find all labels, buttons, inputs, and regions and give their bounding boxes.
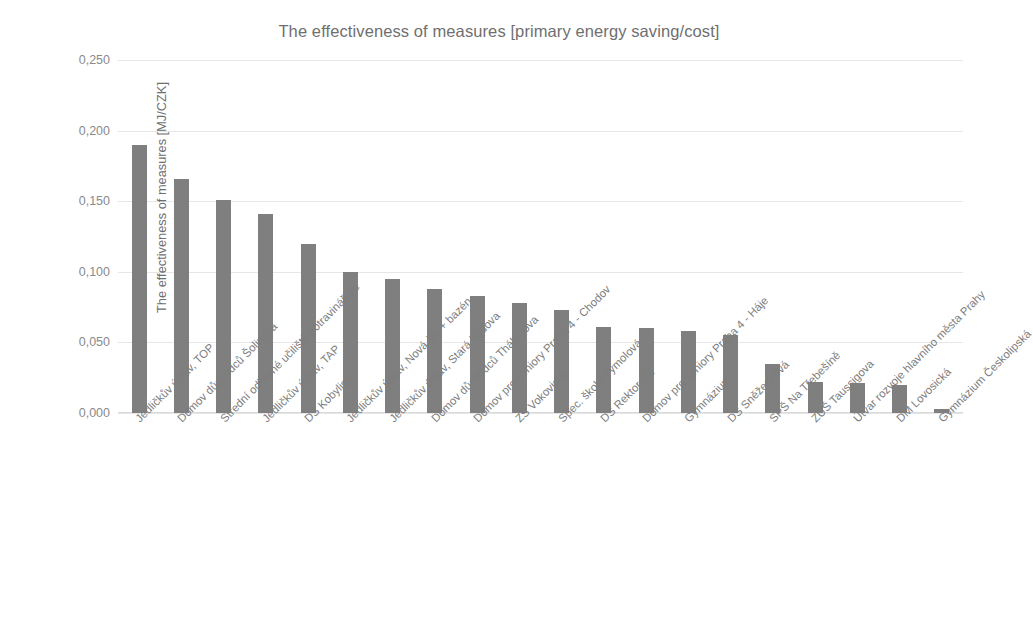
bar[interactable] — [427, 289, 442, 413]
bar-slot — [921, 60, 963, 413]
y-axis-tick-label: 0,050 — [79, 335, 110, 349]
y-axis-tick-label: 0,000 — [79, 406, 110, 420]
y-axis-tick-label: 0,100 — [79, 265, 110, 279]
bar-slot — [752, 60, 794, 413]
bar-slot — [710, 60, 752, 413]
bar-slot — [836, 60, 878, 413]
y-axis-tick-label: 0,250 — [79, 53, 110, 67]
y-axis-tick-label: 0,200 — [79, 124, 110, 138]
chart-title: The effectiveness of measures [primary e… — [0, 22, 998, 41]
y-axis-tick-labels: 0,2500,2000,1500,1000,0500,000 — [48, 60, 110, 413]
bar-slot — [541, 60, 583, 413]
bar-slot — [625, 60, 667, 413]
x-axis-category-labels: Jedličkův ústav, TOPDomov důchodců Šolin… — [118, 416, 998, 631]
bar-slot — [329, 60, 371, 413]
y-axis-title: The effectiveness of measures [MJ/CZK] — [154, 48, 169, 348]
bar[interactable] — [470, 296, 485, 413]
y-axis-tick-label: 0,150 — [79, 194, 110, 208]
gridline — [118, 413, 963, 414]
bar[interactable] — [385, 279, 400, 413]
bar[interactable] — [132, 145, 147, 413]
